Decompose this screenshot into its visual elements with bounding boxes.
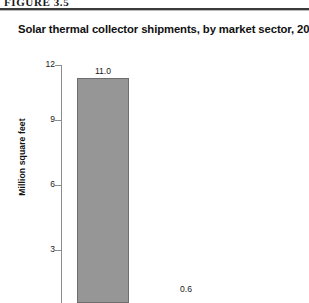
- y-tick-label-6: 6: [5, 180, 55, 189]
- y-axis-title: Million square feet: [17, 97, 27, 217]
- y-tick-label-3: 3: [5, 245, 55, 254]
- y-tick-6: [55, 185, 62, 186]
- y-tick-label-9: 9: [5, 115, 55, 124]
- y-axis-line: [61, 65, 62, 303]
- y-tick-9: [55, 120, 62, 121]
- bar-series-1: [77, 78, 129, 303]
- bar-value-label-2: 0.6: [160, 284, 212, 294]
- plot-area: 12 9 6 3 Million square feet 11.0 0.6: [0, 0, 309, 303]
- y-tick-label-12: 12: [5, 60, 55, 69]
- y-tick-12: [55, 65, 62, 66]
- figure-container: FIGURE 3.5 Solar thermal collector shipm…: [0, 0, 309, 303]
- bar-value-label-1: 11.0: [77, 66, 129, 76]
- y-tick-3: [55, 250, 62, 251]
